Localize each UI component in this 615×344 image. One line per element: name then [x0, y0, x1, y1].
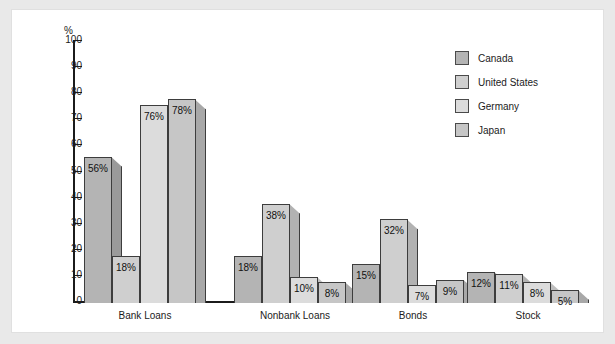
y-axis-tick: 90 — [12, 66, 82, 67]
y-axis-tick-mark — [75, 301, 82, 302]
bar-value-label: 32% — [382, 225, 406, 236]
y-axis-tick: 60 — [12, 144, 82, 145]
bar[interactable]: 7% — [408, 285, 436, 303]
bar[interactable]: 10% — [290, 277, 318, 303]
bar-value-label: 38% — [264, 210, 288, 221]
x-axis-category-label: Bank Loans — [59, 310, 231, 321]
bar[interactable]: 18% — [112, 256, 140, 303]
bar-value-label: 78% — [170, 105, 194, 116]
bar-value-label: 12% — [469, 278, 493, 289]
bar-group: 18%38%10%8% — [234, 41, 356, 303]
bar-side-face — [578, 290, 589, 303]
y-axis-tick-mark — [75, 144, 82, 145]
bar[interactable]: 56% — [84, 157, 112, 303]
bar[interactable]: 8% — [523, 282, 551, 303]
chart-plot-area: % 1009080706050403020100 56%18%76%78%18%… — [12, 10, 603, 332]
bar[interactable]: 76% — [140, 105, 168, 303]
bar[interactable]: 32% — [380, 219, 408, 303]
x-axis-category-label: Stock — [442, 310, 614, 321]
legend-swatch-icon — [455, 75, 469, 89]
y-axis-tick-mark — [75, 171, 82, 172]
y-axis-tick: 100 — [12, 40, 82, 41]
y-axis-tick-mark — [75, 275, 82, 276]
legend-label: Canada — [478, 53, 513, 64]
chart-screenshot: % 1009080706050403020100 56%18%76%78%18%… — [0, 0, 615, 344]
bar-value-label: 11% — [497, 280, 521, 291]
bar-value-label: 7% — [410, 291, 434, 302]
legend-label: Japan — [478, 125, 505, 136]
y-axis-tick: 10 — [12, 275, 82, 276]
y-axis-tick-mark — [75, 197, 82, 198]
y-axis-tick: 40 — [12, 197, 82, 198]
y-axis-tick: 50 — [12, 171, 82, 172]
legend-label: Germany — [478, 101, 519, 112]
bar-value-label: 76% — [142, 111, 166, 122]
bar[interactable]: 12% — [467, 272, 495, 303]
y-axis-tick: 30 — [12, 223, 82, 224]
y-axis-tick-mark — [75, 118, 82, 119]
bar-value-label: 9% — [438, 286, 462, 297]
bar-value-label: 5% — [553, 296, 577, 307]
y-axis-tick-mark — [75, 40, 82, 41]
legend-swatch-icon — [455, 51, 469, 65]
bar[interactable]: 18% — [234, 256, 262, 303]
legend-swatch-icon — [455, 99, 469, 113]
bar-side-face — [195, 99, 206, 303]
legend-item[interactable]: Germany — [455, 94, 595, 118]
bar[interactable]: 8% — [318, 282, 346, 303]
legend-label: United States — [478, 77, 538, 88]
legend-swatch-icon — [455, 123, 469, 137]
y-axis-tick: 0 — [12, 301, 82, 302]
bar-value-label: 8% — [320, 288, 344, 299]
legend-item[interactable]: Japan — [455, 118, 595, 142]
y-axis-tick-mark — [75, 66, 82, 67]
bar[interactable]: 9% — [436, 280, 464, 303]
chart-panel: % 1009080706050403020100 56%18%76%78%18%… — [12, 10, 603, 332]
bar-group: 56%18%76%78% — [84, 41, 206, 303]
bar[interactable]: 78% — [168, 99, 196, 303]
bar[interactable]: 38% — [262, 204, 290, 303]
bar-value-label: 15% — [354, 270, 378, 281]
bar-value-label: 56% — [86, 163, 110, 174]
legend-item[interactable]: United States — [455, 70, 595, 94]
chart-legend: CanadaUnited StatesGermanyJapan — [455, 46, 595, 142]
y-axis-tick-mark — [75, 249, 82, 250]
y-axis-tick: 70 — [12, 118, 82, 119]
legend-item[interactable]: Canada — [455, 46, 595, 70]
bar[interactable]: 11% — [495, 274, 523, 303]
bar-value-label: 18% — [114, 262, 138, 273]
bar[interactable]: 15% — [352, 264, 380, 303]
bar-value-label: 18% — [236, 262, 260, 273]
y-axis-tick: 80 — [12, 92, 82, 93]
y-axis-tick-mark — [75, 223, 82, 224]
y-axis-tick: 20 — [12, 249, 82, 250]
y-axis-tick-mark — [75, 92, 82, 93]
bar-value-label: 10% — [292, 283, 316, 294]
bar-value-label: 8% — [525, 288, 549, 299]
bar[interactable]: 5% — [551, 290, 579, 303]
